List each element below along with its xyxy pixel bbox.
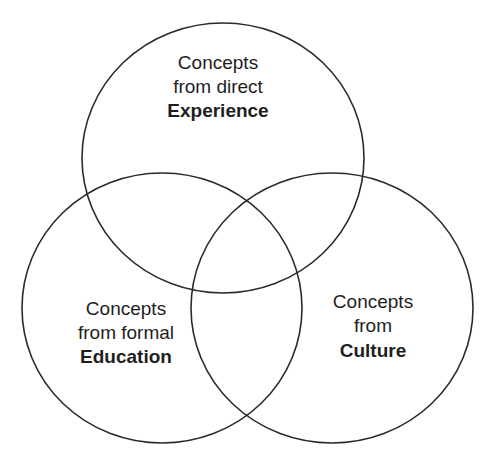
venn-diagram: Concepts from direct Experience Concepts… <box>0 0 487 460</box>
label-education-line-2: from formal <box>78 322 174 343</box>
label-education-line-1: Concepts <box>86 298 166 319</box>
label-education: Concepts from formal Education <box>78 298 174 367</box>
label-experience-line-2: from direct <box>173 76 263 97</box>
label-culture: Concepts from Culture <box>333 291 413 361</box>
label-experience-emphasis: Experience <box>167 100 268 121</box>
label-culture-emphasis: Culture <box>340 340 407 361</box>
label-experience-line-1: Concepts <box>178 52 258 73</box>
label-culture-line-2: from <box>354 315 392 336</box>
label-culture-line-1: Concepts <box>333 291 413 312</box>
label-experience: Concepts from direct Experience <box>167 52 268 121</box>
label-education-emphasis: Education <box>80 346 172 367</box>
